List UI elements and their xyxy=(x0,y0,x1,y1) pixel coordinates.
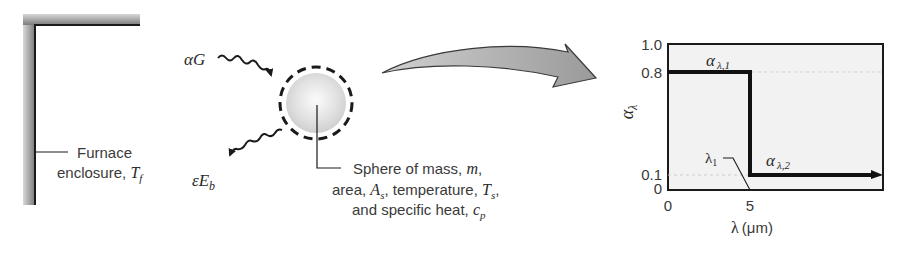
x-tick-5: 5 xyxy=(746,197,754,214)
diagram-canvas: Furnace enclosure, Tf αG εEb Sphere of m… xyxy=(0,0,907,256)
sphere xyxy=(280,67,352,139)
sphere-description-line2: area, As, temperature, Ts, xyxy=(332,181,499,201)
furnace-label-line1: Furnace xyxy=(77,144,132,161)
x-tick-0: 0 xyxy=(664,197,672,214)
emitted-wavy-arrow-icon xyxy=(230,129,282,155)
sphere-description-line1: Sphere of mass, m, xyxy=(353,160,482,177)
sphere-description-line3: and specific heat, cp xyxy=(352,201,486,221)
y-tick-0: 0 xyxy=(654,180,662,197)
furnace-label-line2: enclosure, Tf xyxy=(57,164,144,184)
y-axis-label: αλ xyxy=(617,105,640,120)
y-tick-1-0: 1.0 xyxy=(641,36,662,53)
x-axis-label: λ(μm) xyxy=(731,219,773,236)
curved-arrow-icon xyxy=(382,44,596,87)
absorbed-irradiation-label: αG xyxy=(184,50,205,69)
absorbed-wavy-arrow-icon xyxy=(218,56,271,76)
emitted-radiation-label: εEb xyxy=(192,171,215,193)
plot-area xyxy=(668,44,883,190)
absorptivity-chart: 1.0 0.8 0.1 0 0 5 λ(μm) αλ αλ,1 αλ,2 λ1 xyxy=(617,36,883,236)
y-tick-0-8: 0.8 xyxy=(641,64,662,81)
